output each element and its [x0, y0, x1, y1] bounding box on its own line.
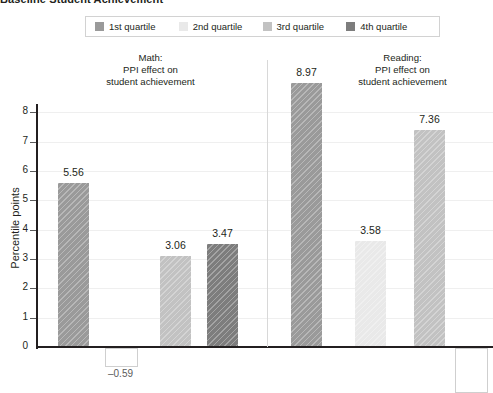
- bar-reading-1st-quartile[interactable]: [291, 83, 322, 346]
- y-axis-title: Percentile points: [9, 153, 21, 303]
- bar-reading-4th-quartile[interactable]: [455, 348, 488, 393]
- bar-value-reading-2nd-quartile: 3.58: [345, 224, 396, 236]
- bar-reading-2nd-quartile[interactable]: [355, 241, 386, 346]
- ytick-label-8: 8: [6, 105, 28, 116]
- bar-value-math-1st-quartile: 5.56: [48, 166, 99, 178]
- bar-math-4th-quartile[interactable]: [207, 244, 238, 346]
- bar-value-math-3rd-quartile: 3.06: [150, 239, 201, 251]
- ytick-label-0: 0: [6, 340, 28, 351]
- bar-math-2nd-quartile[interactable]: [105, 348, 138, 367]
- bar-math-3rd-quartile[interactable]: [160, 256, 191, 346]
- panel-caption-math: Math: PPI effect on student achievement: [58, 52, 243, 89]
- ytick-label-7: 7: [6, 135, 28, 146]
- bar-value-math-2nd-quartile: –0.59: [95, 368, 146, 379]
- y-axis-line: [36, 104, 38, 349]
- panel-divider: [267, 60, 268, 347]
- ytick-label-1: 1: [6, 311, 28, 322]
- bar-value-reading-3rd-quartile: 7.36: [404, 113, 455, 125]
- bar-value-math-4th-quartile: 3.47: [197, 227, 248, 239]
- bar-value-reading-1st-quartile: 8.97: [281, 66, 332, 78]
- bar-math-1st-quartile[interactable]: [58, 183, 89, 346]
- bar-reading-3rd-quartile[interactable]: [414, 130, 445, 346]
- panel-caption-reading: Reading: PPI effect on student achieveme…: [310, 52, 493, 89]
